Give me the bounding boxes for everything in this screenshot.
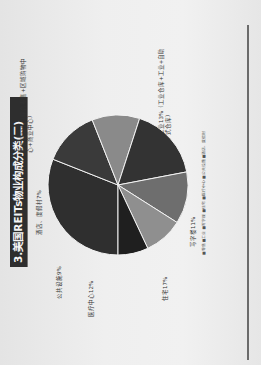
page-background: 3.美国REITs物业构成分类(二) 零售业31%（综合零售+区域购物中 心+商… (0, 0, 261, 365)
chart-legend: ■零售 ■工业 ■写字楼 ■住宅 ■医疗中心 ■公共设施 ■酒店、度假村 (201, 131, 206, 255)
label-residential: 住宅17% (162, 277, 169, 301)
slide: 3.美国REITs物业构成分类(二) 零售业31%（综合零售+区域购物中 心+商… (0, 0, 261, 365)
label-industrial: 工业13%（工业仓库+工业+自助 式仓库） (158, 48, 172, 135)
label-public: 公共设施9% (56, 266, 63, 299)
divider-rule (247, 25, 249, 360)
label-industrial-line1: 工业13%（工业仓库+工业+自助 (158, 48, 165, 135)
label-industrial-line2: 式仓库） (165, 48, 172, 135)
label-healthcare: 医疗中心12% (88, 281, 95, 317)
label-retail-line2: 心+商业中心） (27, 58, 34, 153)
label-retail-line1: 零售业31%（综合零售+区域购物中 (20, 58, 27, 153)
label-office: 写字楼11% (190, 217, 197, 247)
label-retail: 零售业31%（综合零售+区域购物中 心+商业中心） (20, 58, 34, 153)
label-hotel: 酒店、度假村7% (36, 190, 43, 235)
